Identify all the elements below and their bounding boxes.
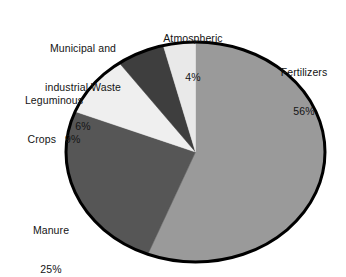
- pie-chart: Atmospheric 4% Municipal and industrial …: [0, 0, 346, 277]
- pie-label-manure: Manure 25%: [8, 198, 94, 277]
- pie-label-manure-name: Manure: [8, 224, 94, 237]
- pie-label-leguminous-crops: Leguminous Crops 9%: [2, 68, 106, 172]
- pie-label-fertilizers-name: Fertilizers: [264, 66, 344, 79]
- pie-label-fertilizers-value: 56%: [264, 105, 344, 118]
- pie-label-fertilizers: Fertilizers 56%: [264, 40, 344, 144]
- pie-label-leguminous-line2: Crops 9%: [2, 133, 106, 146]
- pie-label-atmospheric: Atmospheric 4%: [141, 6, 245, 110]
- pie-label-atmospheric-value: 4%: [141, 71, 245, 84]
- pie-label-leguminous-line1: Leguminous: [2, 94, 106, 107]
- pie-label-atmospheric-name: Atmospheric: [141, 32, 245, 45]
- pie-label-municipal-line1: Municipal and: [22, 42, 144, 55]
- pie-label-manure-value: 25%: [8, 263, 94, 276]
